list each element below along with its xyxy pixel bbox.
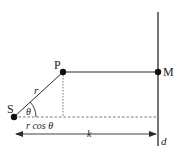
label-rcos-theta: r cos θ (26, 120, 53, 131)
label-p: P (54, 58, 61, 72)
label-s: S (7, 102, 14, 116)
angle-arc-theta (30, 102, 36, 117)
label-m: M (163, 65, 174, 79)
label-theta: θ (26, 106, 31, 117)
label-d: d (161, 135, 167, 147)
label-r: r (34, 84, 39, 96)
label-k: k (87, 128, 92, 139)
geometry-diagram: S P M r θ r cos θ k d (0, 0, 185, 149)
point-p (60, 69, 66, 75)
point-m (155, 69, 161, 75)
segment-sp-r (14, 72, 63, 117)
